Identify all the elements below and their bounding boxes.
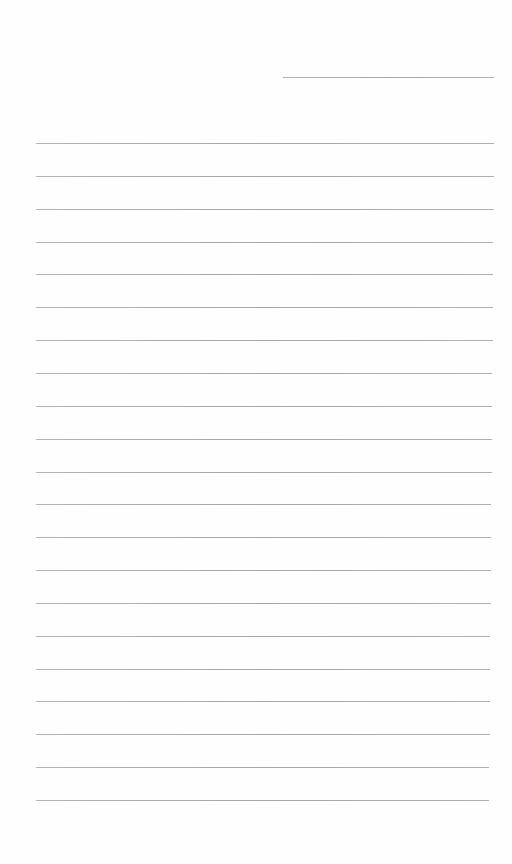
header-date-line xyxy=(283,77,494,78)
ruled-line xyxy=(36,274,493,275)
ruled-line xyxy=(36,767,489,768)
ruled-line xyxy=(36,701,490,702)
ruled-line xyxy=(36,439,492,440)
ruled-line xyxy=(36,242,493,243)
ruled-line xyxy=(36,373,492,374)
ruled-line xyxy=(36,734,490,735)
ruled-line xyxy=(36,636,490,637)
ruled-line xyxy=(36,143,494,144)
ruled-line xyxy=(36,603,491,604)
ruled-line xyxy=(36,504,491,505)
lined-paper-page xyxy=(0,0,512,864)
ruled-line xyxy=(36,570,491,571)
ruled-line xyxy=(36,176,494,177)
ruled-line xyxy=(36,669,490,670)
ruled-line xyxy=(36,406,492,407)
ruled-line xyxy=(36,209,494,210)
ruled-line xyxy=(36,537,491,538)
ruled-line xyxy=(36,472,492,473)
ruled-line xyxy=(36,800,489,801)
ruled-line xyxy=(36,340,493,341)
ruled-line xyxy=(36,307,493,308)
